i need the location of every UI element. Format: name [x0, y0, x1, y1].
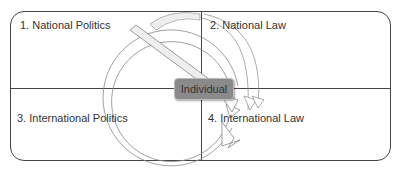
quadrant-international-politics: 3. International Politics [17, 112, 128, 124]
quadrant-international-law: 4. International Law [208, 112, 304, 124]
center-individual-box: Individual [174, 78, 234, 100]
quadrant-national-law: 2. National Law [210, 19, 286, 31]
quadrant-national-politics: 1. National Politics [20, 19, 111, 31]
